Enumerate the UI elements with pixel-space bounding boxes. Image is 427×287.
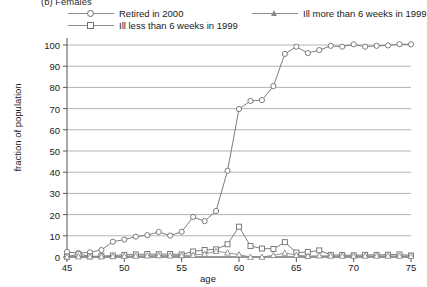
data-point-square (282, 240, 287, 245)
data-point-circle (213, 208, 218, 213)
data-point-circle (305, 50, 310, 55)
data-point-circle (351, 42, 356, 47)
data-point-circle (248, 98, 253, 103)
data-point-square (237, 224, 242, 229)
data-point-circle (179, 229, 184, 234)
data-point-circle (122, 237, 127, 242)
x-tick-label: 55 (176, 262, 187, 273)
data-point-circle (259, 98, 264, 103)
data-point-circle (191, 214, 196, 219)
data-point-circle (363, 44, 368, 49)
x-tick-label: 60 (234, 262, 245, 273)
series-line (67, 44, 411, 253)
data-point-circle (225, 168, 230, 173)
data-point-square (259, 246, 264, 251)
data-point-circle (110, 239, 115, 244)
data-point-circle (99, 247, 104, 252)
data-point-circle (133, 234, 138, 239)
data-point-circle (294, 44, 299, 49)
data-point-circle (156, 229, 161, 234)
x-tick-label: 50 (119, 262, 130, 273)
data-point-triangle (282, 250, 288, 255)
data-point-square (225, 242, 230, 247)
data-point-circle (408, 42, 413, 47)
x-tick-label: 45 (62, 262, 73, 273)
x-tick-label: 65 (291, 262, 302, 273)
data-point-circle (374, 43, 379, 48)
x-tick-label: 70 (348, 262, 359, 273)
data-point-circle (397, 42, 402, 47)
data-point-circle (202, 219, 207, 224)
x-tick-label: 75 (406, 262, 417, 273)
data-point-circle (385, 43, 390, 48)
data-point-square (271, 246, 276, 251)
data-point-circle (340, 44, 345, 49)
data-point-circle (168, 233, 173, 238)
data-point-circle (271, 84, 276, 89)
data-point-circle (328, 43, 333, 48)
data-point-circle (145, 233, 150, 238)
data-point-circle (282, 51, 287, 56)
data-point-circle (236, 106, 241, 111)
data-point-square (248, 243, 253, 248)
data-point-circle (317, 47, 322, 52)
series-circle (64, 42, 413, 256)
